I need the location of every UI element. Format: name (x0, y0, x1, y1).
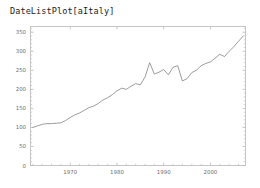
x-tick-label: 1990 (157, 169, 171, 175)
y-tick-label: 200 (16, 86, 27, 92)
y-tick-label: 100 (16, 124, 27, 130)
y-tick-label: 300 (16, 48, 27, 54)
x-axis-ticks: 1970198019902000 (33, 27, 239, 175)
x-tick-label: 1980 (110, 169, 124, 175)
y-tick-label: 50 (19, 143, 26, 149)
y-tick-label: 150 (16, 105, 27, 111)
chart-canvas: 050100150200250300350 1970198019902000 (0, 0, 260, 188)
y-tick-label: 0 (23, 163, 27, 169)
plot-container: DateListPlot[aItaly] 0501001502002503003… (0, 0, 260, 188)
plot-frame (31, 27, 246, 166)
y-tick-label: 350 (16, 29, 27, 35)
frame-border (31, 27, 246, 166)
data-series-line (33, 36, 243, 127)
y-tick-label: 250 (16, 67, 27, 73)
x-tick-label: 2000 (204, 169, 218, 175)
y-axis-ticks: 050100150200250300350 (16, 28, 246, 168)
x-tick-label: 1970 (63, 169, 77, 175)
